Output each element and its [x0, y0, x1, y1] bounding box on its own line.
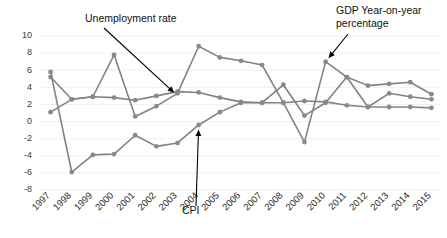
data-point [133, 98, 138, 103]
annotation-label: Unemployment rate [85, 12, 177, 24]
data-point [90, 153, 95, 158]
data-point [302, 140, 307, 145]
x-axis-tick-label: 2002 [135, 190, 158, 213]
data-point [302, 99, 307, 104]
x-axis-tick-label: 2003 [156, 190, 179, 213]
x-axis-tick-label: 2007 [241, 190, 264, 213]
x-axis-tick-label: 2005 [199, 190, 222, 213]
x-axis-tick-label: 1999 [72, 190, 95, 213]
data-point [175, 141, 180, 146]
annotation-gdp: GDP Year-on-yearpercentage [328, 4, 422, 58]
data-point [154, 93, 159, 98]
data-point [429, 97, 434, 102]
y-axis-tick-label: 4 [27, 82, 32, 92]
line-chart: 1086420-2-4-6-8 199719981999200020012002… [0, 0, 447, 238]
x-axis-tick-label: 2009 [283, 190, 306, 213]
data-point [112, 95, 117, 100]
annotation-label: CPI [182, 204, 200, 216]
y-axis-tick-label: 2 [27, 99, 32, 109]
data-point [281, 82, 286, 87]
annotation-arrow-line [331, 34, 348, 55]
annotation-arrow-line [104, 28, 171, 90]
data-point [408, 80, 413, 85]
x-axis-tick-label: 1998 [50, 190, 73, 213]
x-axis-tick-label: 2013 [368, 190, 391, 213]
data-point [408, 94, 413, 99]
data-point [112, 152, 117, 157]
y-axis-tick-label: -6 [24, 167, 32, 177]
data-point [387, 91, 392, 96]
data-point [154, 104, 159, 109]
data-point [112, 52, 117, 57]
data-point [196, 44, 201, 49]
x-axis-tick-label: 2001 [114, 190, 137, 213]
data-point [69, 170, 74, 175]
y-axis-tick-label: 10 [22, 30, 32, 40]
data-point [154, 144, 159, 149]
y-axis-tick-label: -4 [24, 150, 32, 160]
x-axis-tick-label: 2011 [326, 190, 348, 212]
data-point [344, 103, 349, 108]
data-point [260, 100, 265, 105]
x-axis-tick-label: 2006 [220, 190, 243, 213]
data-point [366, 105, 371, 110]
series-gdp-year-on-year-percentage [48, 44, 434, 145]
data-point [69, 97, 74, 102]
data-point [175, 91, 180, 96]
data-point [387, 105, 392, 110]
y-axis-tick-label: 0 [27, 116, 32, 126]
x-axis-tick-label: 2014 [389, 190, 412, 213]
y-axis-tick-label: -2 [24, 133, 32, 143]
y-axis-tick-label: 6 [27, 65, 32, 75]
x-axis-tick-labels: 1997199819992000200120022003200420052006… [29, 190, 433, 213]
data-point [239, 100, 244, 105]
y-axis-tick-label: -8 [24, 184, 32, 194]
data-point [217, 95, 222, 100]
data-point [48, 110, 53, 115]
x-axis-tick-label: 2010 [304, 190, 327, 213]
annotation-label: GDP Year-on-year [336, 4, 422, 16]
chart-container: 1086420-2-4-6-8 199719981999200020012002… [0, 0, 447, 238]
x-axis-tick-label: 2012 [347, 190, 370, 213]
data-point [323, 100, 328, 105]
data-point [133, 133, 138, 138]
data-point [260, 63, 265, 68]
series-lines [48, 44, 434, 175]
data-point [387, 82, 392, 87]
annotation-label-line2: percentage [336, 17, 389, 29]
data-point [48, 70, 53, 75]
data-point [196, 123, 201, 128]
data-point [366, 83, 371, 88]
data-point [90, 94, 95, 99]
data-point [217, 110, 222, 115]
data-point [281, 100, 286, 105]
data-point [302, 113, 307, 118]
data-point [196, 90, 201, 95]
data-point [133, 114, 138, 119]
data-point [344, 75, 349, 80]
x-axis-tick-label: 1997 [29, 190, 52, 213]
x-axis-tick-label: 2015 [410, 190, 433, 213]
annotation-unemployment: Unemployment rate [85, 12, 177, 93]
data-point [408, 105, 413, 110]
annotation-arrow-head [195, 129, 201, 136]
data-point [323, 59, 328, 64]
data-point [217, 55, 222, 60]
x-axis-tick-label: 2000 [93, 190, 116, 213]
y-axis-tick-label: 8 [27, 47, 32, 57]
data-point [429, 105, 434, 110]
x-axis-tick-label: 2008 [262, 190, 285, 213]
data-point [239, 58, 244, 63]
data-point [429, 92, 434, 97]
y-axis-tick-labels: 1086420-2-4-6-8 [22, 30, 32, 194]
